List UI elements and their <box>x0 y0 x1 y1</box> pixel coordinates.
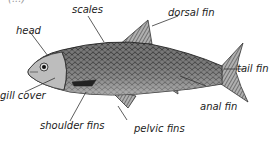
label-dorsal-fin: dorsal fin <box>168 8 215 18</box>
label-tail-fin: tail fin <box>237 64 269 74</box>
label-head: head <box>16 26 41 36</box>
fish-head <box>28 52 67 90</box>
label-shoulder-fins: shoulder fins <box>40 121 105 131</box>
fish-diagram: (...) <box>0 0 269 141</box>
label-gill-cover: gill cover <box>0 91 46 101</box>
label-anal-fin: anal fin <box>200 102 237 112</box>
label-scales: scales <box>72 5 103 15</box>
label-pelvic-fins: pelvic fins <box>134 124 185 134</box>
